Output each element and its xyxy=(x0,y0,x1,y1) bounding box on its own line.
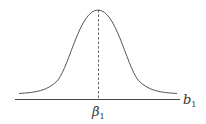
mean-label: β1 xyxy=(91,104,105,121)
x-axis-label: b1 xyxy=(183,92,196,109)
bell-curve xyxy=(19,10,177,94)
sampling-distribution-diagram: b1 β1 xyxy=(0,0,206,124)
